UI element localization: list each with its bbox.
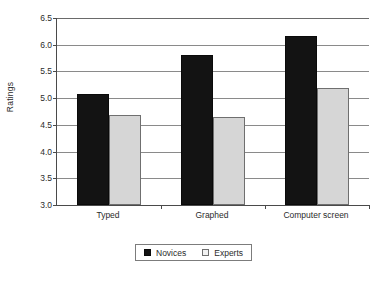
y-axis-tick-mark [53,18,57,19]
y-axis-tick-mark [53,178,57,179]
y-axis-tick-label: 6.5 [26,13,52,23]
y-axis-tick-mark [53,125,57,126]
y-axis-tick-mark [53,71,57,72]
bar-experts-typed [109,115,141,205]
y-axis-tick-mark [53,152,57,153]
y-axis-tick-label: 4.0 [26,147,52,157]
y-axis-tick-label: 5.5 [26,66,52,76]
gridline [57,18,369,19]
x-axis-tick-mark [369,205,370,209]
y-axis-title: Ratings [5,65,15,129]
legend-label: Experts [214,248,243,258]
legend-entry-novices: Novices [144,248,186,258]
y-axis-tick-label: 5.0 [26,93,52,103]
y-axis-tick-label: 3.0 [26,200,52,210]
chart-legend: NovicesExperts [135,244,252,261]
x-axis-tick-mark [265,205,266,209]
legend-label: Novices [156,248,186,258]
y-axis-tick-label: 4.5 [26,120,52,130]
legend-entry-experts: Experts [202,248,243,258]
y-axis-tick-mark [53,98,57,99]
plot-area [56,18,369,206]
gridline [57,71,369,72]
x-axis-category-label: Graphed [195,210,228,220]
y-axis-tick-mark [53,205,57,206]
x-axis-category-label: Computer screen [283,210,348,220]
y-axis-tick-label: 6.0 [26,40,52,50]
x-axis-tick-mark [161,205,162,209]
y-axis-tick-labels: 6.56.05.55.04.54.03.53.0 [26,18,52,205]
bar-novices-typed [77,94,109,205]
y-axis-tick-label: 3.5 [26,173,52,183]
bar-experts-computer-screen [317,88,349,205]
legend-swatch-icon [144,249,151,256]
bar-experts-graphed [213,117,245,205]
legend-swatch-icon [202,249,209,256]
bar-chart-figure: Ratings 6.56.05.55.04.54.03.53.0 Novices… [0,0,383,282]
x-axis-category-label: Typed [96,210,119,220]
gridline [57,45,369,46]
bar-novices-graphed [181,55,213,205]
bar-novices-computer-screen [285,36,317,205]
y-axis-tick-mark [53,45,57,46]
